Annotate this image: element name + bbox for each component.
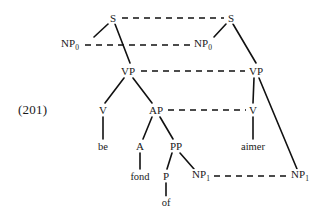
tree-node-subscript: 1 bbox=[305, 174, 309, 183]
tree-node-label: V bbox=[249, 104, 257, 116]
tree-node-be: be bbox=[97, 141, 109, 152]
tree-node-pp: PP bbox=[169, 141, 183, 152]
correspondence-link-group bbox=[85, 18, 288, 176]
tree-node-label: V bbox=[99, 104, 107, 116]
tree-node-v_left: V bbox=[98, 105, 108, 116]
tree-node-np0_left: NP0 bbox=[60, 38, 80, 52]
tree-node-fond: fond bbox=[129, 171, 150, 182]
tree-node-np1_left: NP1 bbox=[191, 169, 211, 183]
figure-root: (201) SSNP0NP0VPVPVAPVbeAPPaimerfondPNP1… bbox=[0, 0, 326, 214]
tree-edge-s_left-np0_left bbox=[94, 24, 108, 37]
tree-node-a: A bbox=[135, 141, 145, 152]
tree-node-label: be bbox=[98, 141, 108, 152]
tree-node-subscript: 0 bbox=[75, 43, 79, 52]
tree-node-label: VP bbox=[249, 65, 263, 77]
tree-node-ap: AP bbox=[148, 105, 164, 116]
tree-node-label: NP bbox=[194, 37, 208, 49]
tree-edge-ap-a bbox=[143, 117, 152, 139]
tree-node-label: PP bbox=[170, 140, 182, 152]
tree-node-label: of bbox=[162, 197, 171, 208]
tree-node-subscript: 0 bbox=[208, 43, 212, 52]
tree-node-v_right: V bbox=[248, 105, 258, 116]
tree-edge-vp_right-v_right bbox=[253, 78, 254, 103]
tree-node-label: aimer bbox=[241, 141, 265, 152]
tree-node-label: A bbox=[136, 140, 144, 152]
tree-node-s_right: S bbox=[227, 13, 235, 24]
tree-node-np0_right: NP0 bbox=[193, 38, 213, 52]
tree-node-label: NP bbox=[61, 37, 75, 49]
tree-node-label: AP bbox=[149, 104, 163, 116]
tree-node-np1_right: NP1 bbox=[290, 169, 310, 183]
tree-edge-vp_right-np1_right bbox=[259, 78, 297, 169]
tree-node-s_left: S bbox=[109, 13, 117, 24]
tree-node-label: S bbox=[110, 12, 116, 24]
tree-node-vp_right: VP bbox=[248, 66, 264, 77]
tree-node-label: NP bbox=[192, 168, 206, 180]
tree-edge-ap-pp bbox=[160, 117, 173, 139]
tree-node-vp_left: VP bbox=[120, 66, 136, 77]
tree-node-aimer: aimer bbox=[240, 141, 266, 152]
tree-edge-s_right-np0_right bbox=[214, 24, 226, 37]
tree-node-label: NP bbox=[291, 168, 305, 180]
tree-edge-pp-np1_left bbox=[180, 153, 194, 169]
tree-edge-vp_left-v_left bbox=[105, 78, 124, 103]
tree-node-subscript: 1 bbox=[206, 174, 210, 183]
tree-edge-vp_left-ap bbox=[133, 78, 152, 103]
tree-node-label: P bbox=[163, 170, 169, 182]
tree-node-p: P bbox=[162, 171, 170, 182]
tree-node-label: VP bbox=[121, 65, 135, 77]
tree-node-of: of bbox=[161, 197, 172, 208]
tree-edge-s_left-vp_left bbox=[115, 24, 130, 63]
tree-edge-s_right-vp_right bbox=[233, 24, 256, 63]
tree-edge-pp-p bbox=[167, 153, 172, 169]
tree-node-label: S bbox=[228, 12, 234, 24]
tree-node-label: fond bbox=[130, 171, 149, 182]
